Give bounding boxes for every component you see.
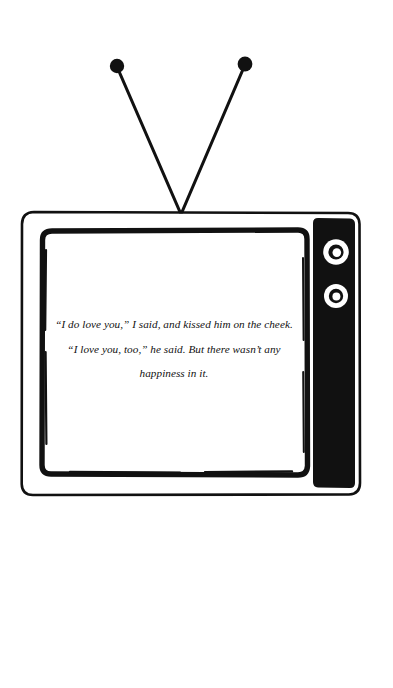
- television-illustration: “I do love you,” I said, and kissed him …: [0, 0, 393, 688]
- channel-knob-center: [332, 292, 340, 300]
- caption-line-2: “I love you, too,” he said. But there wa…: [52, 337, 296, 362]
- antenna-right-tip-icon: [238, 57, 253, 72]
- caption-line-3: happiness in it.: [52, 361, 296, 386]
- antenna-left-tip-icon: [110, 59, 124, 73]
- caption-line-1: “I do love you,” I said, and kissed him …: [52, 312, 296, 337]
- volume-knob[interactable]: [323, 239, 349, 265]
- volume-knob-center: [333, 248, 342, 257]
- tv-control-panel[interactable]: [313, 218, 355, 488]
- channel-knob[interactable]: [324, 284, 348, 308]
- screen-caption-text: “I do love you,” I said, and kissed him …: [52, 312, 296, 386]
